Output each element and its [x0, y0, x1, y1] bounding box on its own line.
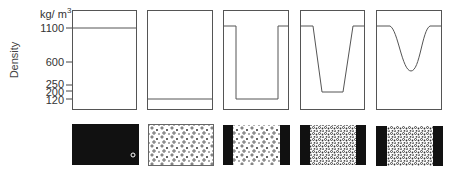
panel-3-profile	[223, 26, 289, 99]
density-profile-chart	[0, 0, 460, 176]
panel-5-frame	[377, 11, 442, 110]
panel-5-profile	[376, 26, 442, 71]
texture-1	[72, 124, 139, 165]
texture-4	[300, 125, 366, 165]
panel-1-frame	[73, 11, 137, 110]
panel-4-profile	[300, 26, 364, 92]
texture-3	[223, 125, 290, 165]
texture-5	[376, 126, 443, 166]
texture-2	[149, 125, 214, 166]
y-axis-ticks	[66, 28, 72, 99]
panel-2-frame	[148, 11, 213, 110]
panel-3-frame	[224, 11, 289, 110]
panel-4-frame	[301, 11, 365, 110]
